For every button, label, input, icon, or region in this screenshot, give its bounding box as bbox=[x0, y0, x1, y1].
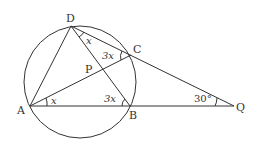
angle-label-Q: 30° bbox=[194, 93, 212, 104]
angle-arc-Q bbox=[215, 98, 217, 106]
geometry-diagram: D C P A B Q x 3x x 3x 30° bbox=[0, 0, 255, 149]
point-label-C: C bbox=[133, 43, 141, 56]
angle-arc-A bbox=[46, 98, 47, 106]
point-label-D: D bbox=[66, 12, 75, 25]
circumcircle bbox=[24, 26, 136, 138]
point-label-B: B bbox=[129, 109, 137, 122]
angle-arc-B bbox=[122, 99, 125, 106]
point-label-P: P bbox=[85, 63, 93, 76]
angle-label-D: x bbox=[86, 35, 92, 46]
angle-label-A: x bbox=[51, 95, 57, 106]
angle-label-C: 3x bbox=[102, 50, 114, 61]
angle-arc-C bbox=[120, 51, 122, 60]
angle-arc-D bbox=[79, 32, 84, 37]
segment-DB bbox=[71, 26, 130, 106]
point-label-A: A bbox=[16, 104, 26, 117]
segment-AD bbox=[30, 26, 71, 106]
angle-label-B: 3x bbox=[104, 93, 116, 104]
point-label-Q: Q bbox=[236, 101, 245, 114]
